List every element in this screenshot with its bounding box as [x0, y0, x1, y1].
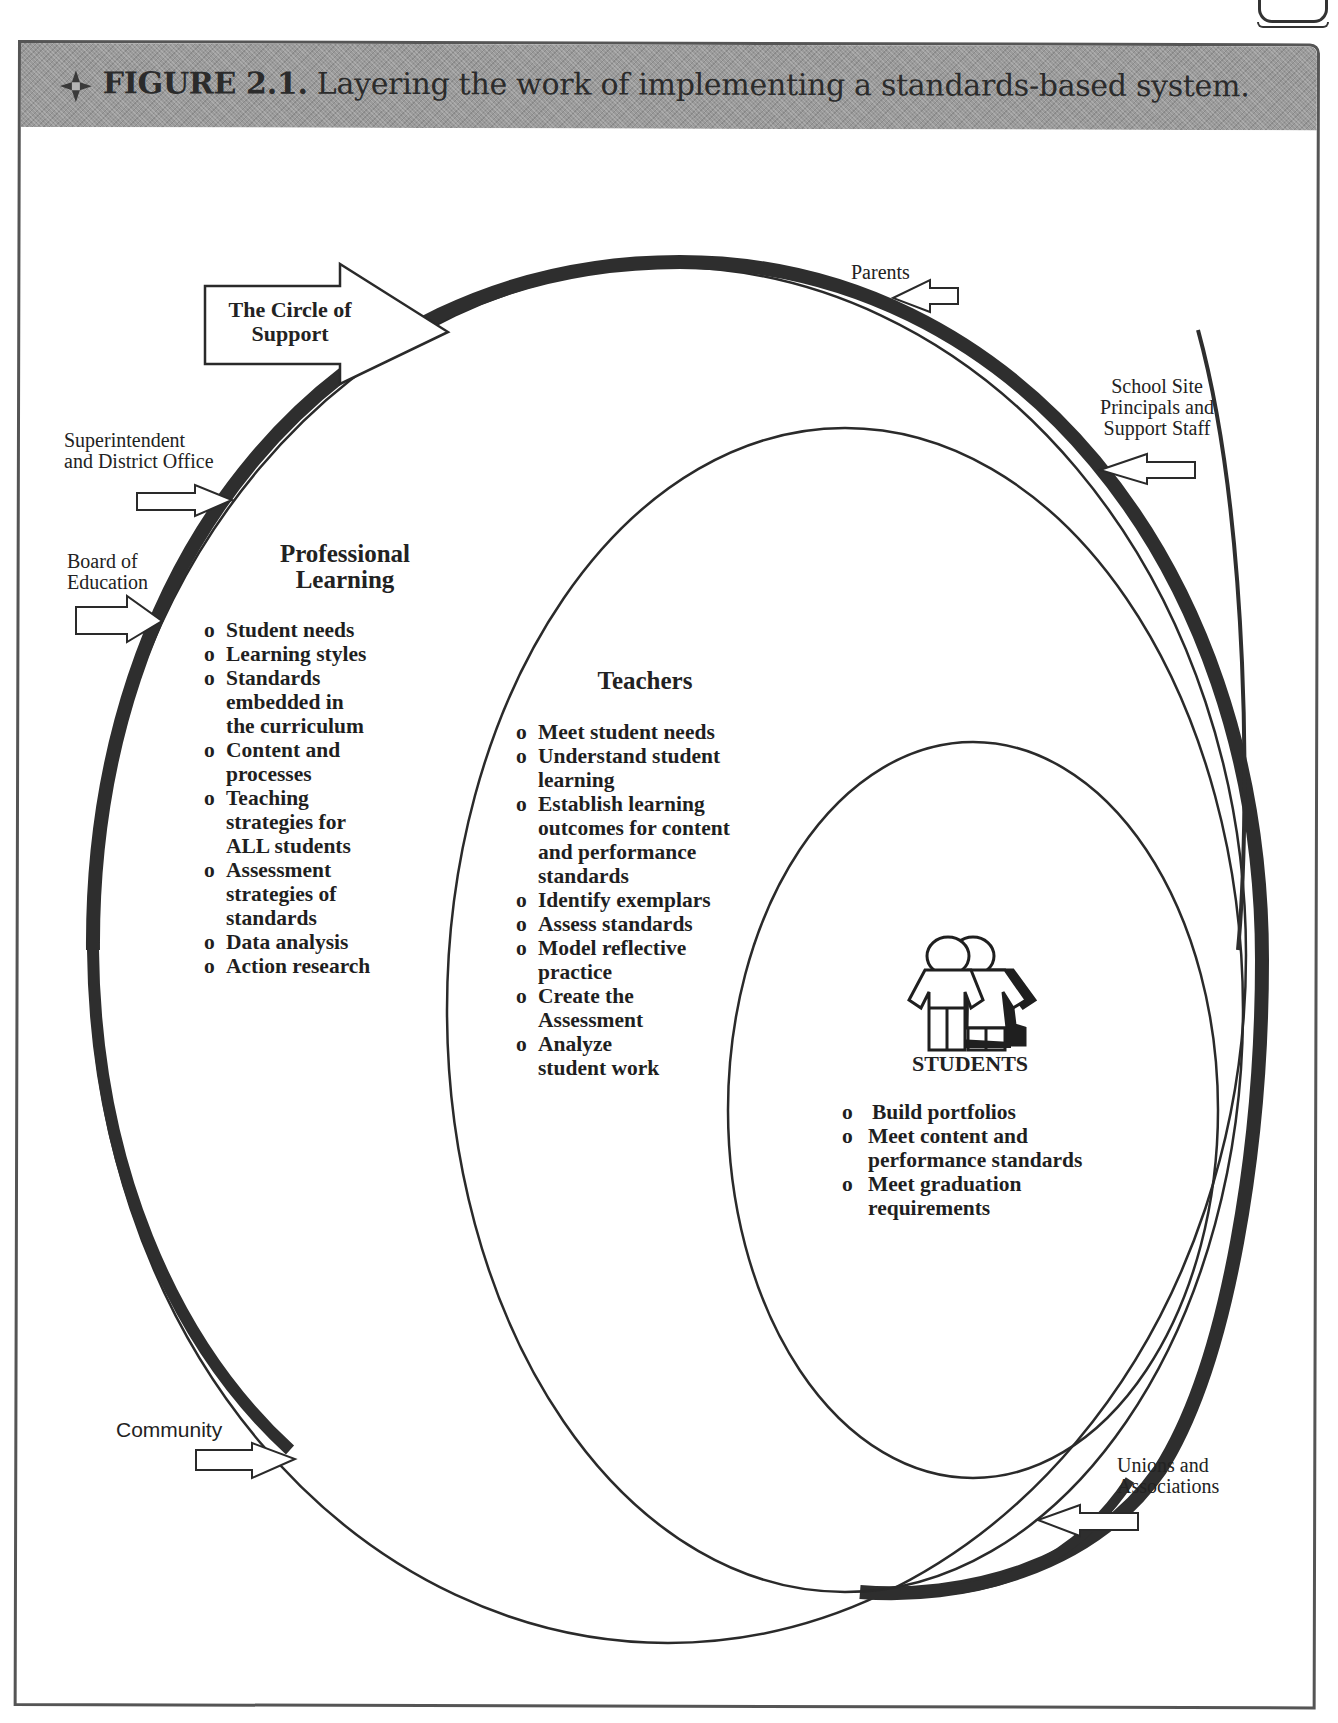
list-item: oContent and processes	[204, 738, 370, 786]
circle-of-support-label: The Circle of Support	[205, 298, 375, 346]
students-list: oBuild portfolios oMeet content and perf…	[842, 1100, 1082, 1220]
professional-learning-list: oStudent needs oLearning styles oStandar…	[204, 618, 370, 978]
students-heading: STUDENTS	[880, 1052, 1060, 1075]
list-item: oMeet graduation requirements	[842, 1172, 1082, 1220]
professional-learning-heading: Professional Learning	[255, 541, 435, 594]
list-item: oMeet content and performance standards	[842, 1124, 1082, 1172]
stakeholder-label-line: and District Office	[64, 451, 214, 472]
list-item: oModel reflective practice	[516, 936, 730, 984]
list-item: oTeaching strategies for ALL students	[204, 786, 370, 858]
stakeholder-label-line: Board of	[67, 551, 148, 572]
stakeholder-unions: Unions and Associations	[1117, 1455, 1219, 1497]
stakeholder-parents: Parents	[851, 262, 910, 283]
stakeholder-label-line: Parents	[851, 262, 910, 283]
stakeholder-label-line: Unions and	[1117, 1455, 1219, 1476]
stakeholder-board: Board of Education	[67, 551, 148, 593]
list-item: oStandards embedded in the curriculum	[204, 666, 370, 738]
list-item: oAnalyze student work	[516, 1032, 730, 1080]
circle-of-support-label-line: The Circle of	[205, 298, 375, 322]
list-item: oLearning styles	[204, 642, 370, 666]
list-item: oData analysis	[204, 930, 370, 954]
list-item: oMeet student needs	[516, 720, 730, 744]
stakeholder-label-line: Associations	[1117, 1476, 1219, 1497]
teachers-heading: Teachers	[560, 668, 730, 694]
stakeholder-label-line: Superintendent	[64, 430, 214, 451]
stakeholder-label-line: Education	[67, 572, 148, 593]
list-item: oBuild portfolios	[842, 1100, 1082, 1124]
list-item: oEstablish learning outcomes for content…	[516, 792, 730, 888]
heading-line: Professional	[255, 541, 435, 567]
heading-line: Learning	[255, 567, 435, 593]
stakeholder-label-line: Community	[116, 1419, 222, 1441]
list-item: oUnderstand student learning	[516, 744, 730, 792]
students-pair-icon	[909, 937, 1035, 1050]
stakeholder-school-site: School Site Principals and Support Staff	[1082, 376, 1232, 439]
list-item: oAssessment strategies of standards	[204, 858, 370, 930]
teachers-list: oMeet student needs oUnderstand student …	[516, 720, 730, 1080]
list-item: oIdentify exemplars	[516, 888, 730, 912]
list-item: oAssess standards	[516, 912, 730, 936]
stakeholder-label-line: Support Staff	[1082, 418, 1232, 439]
stakeholder-community: Community	[116, 1419, 222, 1441]
list-item: oStudent needs	[204, 618, 370, 642]
circle-of-support-label-line: Support	[205, 322, 375, 346]
stakeholder-superintendent: Superintendent and District Office	[64, 430, 214, 472]
stakeholder-label-line: Principals and	[1082, 397, 1232, 418]
list-item: oCreate the Assessment	[516, 984, 730, 1032]
list-item: oAction research	[204, 954, 370, 978]
stakeholder-label-line: School Site	[1082, 376, 1232, 397]
